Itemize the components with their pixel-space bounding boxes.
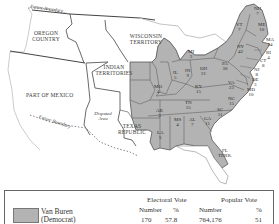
popular-vote-header: Popular Vote xyxy=(221,197,257,204)
state-ga: GA11 xyxy=(204,116,211,126)
state-nc: NC15 xyxy=(228,96,235,106)
oregon-mexico-border xyxy=(10,51,85,63)
popular-number-label: Number xyxy=(199,207,222,214)
electoral-number-label: Number xyxy=(139,207,162,214)
state-sc: SC11 xyxy=(217,107,223,117)
electoral-percent-label: % xyxy=(173,207,179,214)
region-label-disputed: Disputed Area xyxy=(93,112,113,122)
electoral-percent-value: 57.8 xyxy=(165,217,177,224)
van-buren-swatch xyxy=(13,208,39,223)
region-label-florida: FL TERR. xyxy=(217,148,233,158)
state-tn: TN15 xyxy=(185,100,192,110)
state-ms: MS4 xyxy=(174,117,181,127)
state-mo: MO4 xyxy=(154,84,162,94)
region-label-wisconsin: WISCONSIN TERRITORY xyxy=(126,34,166,45)
state-ri: RI4 xyxy=(266,50,271,60)
state-mi: MI3 xyxy=(188,49,194,59)
mexico-east-border xyxy=(84,63,90,135)
state-ma: MA14 xyxy=(266,37,274,47)
state-vt: VT7 xyxy=(236,22,243,32)
state-al: AL7 xyxy=(189,117,196,127)
state-nj: NJ8 xyxy=(254,67,260,77)
election-legend: Electoral Vote Popular Vote Number % Num… xyxy=(4,190,274,224)
candidate-party: (Democrat) xyxy=(41,216,76,224)
oregon-indian-border xyxy=(66,14,84,63)
popular-number-value: 764,176 xyxy=(199,217,222,224)
region-label-oregon: OREGON COUNTRY xyxy=(26,31,66,42)
state-il: IL5 xyxy=(173,70,178,80)
state-ar: AR3 xyxy=(156,108,163,118)
electoral-number-value: 170 xyxy=(141,217,152,224)
region-label-texas: TEXAS REPUBLIC xyxy=(116,124,148,135)
state-ny: NY42 xyxy=(237,44,244,54)
popular-percent-label: % xyxy=(256,207,262,214)
state-pa: PA30 xyxy=(222,61,228,71)
state-nh: NH7 xyxy=(254,6,261,16)
state-in: IN9 xyxy=(185,68,190,78)
region-label-mexico: PART OF MEXICO xyxy=(26,93,73,99)
region-label-indian: INDIAN TERRITORIES xyxy=(94,65,134,76)
state-de: DE3 xyxy=(252,77,259,87)
state-md: MD10 xyxy=(247,87,255,97)
electoral-vote-header: Electoral Vote xyxy=(147,197,187,204)
state-ky: KY15 xyxy=(195,84,202,94)
state-la: LA5 xyxy=(157,130,164,140)
popular-percent-value: 51 xyxy=(255,217,262,224)
state-va: VA23 xyxy=(228,80,235,90)
state-me: ME10 xyxy=(258,22,266,32)
state-ct: CT8 xyxy=(260,58,266,68)
state-oh: OH21 xyxy=(200,66,207,76)
wisconsin-border xyxy=(105,20,128,62)
